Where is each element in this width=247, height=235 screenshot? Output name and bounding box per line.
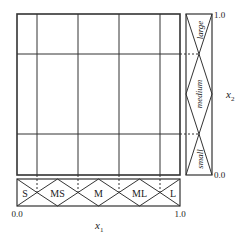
- x-axis-label: x1: [94, 219, 104, 234]
- x-tick-min: 0.0: [11, 209, 23, 219]
- set-label-L: L: [170, 188, 176, 199]
- set-label-small: small: [195, 149, 205, 169]
- y-axis-label: x2: [225, 88, 235, 103]
- y-tick-min: 0.0: [214, 170, 226, 180]
- fuzzy-partition-diagram: S MS M ML L large medium small 1.0 0.0 0…: [0, 0, 247, 235]
- set-label-ML: ML: [132, 188, 147, 199]
- set-label-MS: MS: [50, 188, 64, 199]
- set-label-S: S: [22, 188, 28, 199]
- set-label-M: M: [94, 188, 103, 199]
- set-label-medium: medium: [194, 79, 204, 108]
- x-tick-max: 1.0: [174, 209, 186, 219]
- main-grid-frame: [17, 14, 180, 175]
- y-tick-max: 1.0: [214, 10, 226, 20]
- set-label-large: large: [195, 21, 205, 40]
